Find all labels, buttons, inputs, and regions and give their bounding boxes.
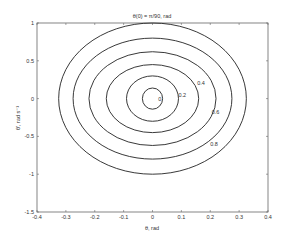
contour-line: [106, 65, 198, 133]
contour-line: [89, 52, 216, 146]
x-tick-label: 0.4: [264, 214, 272, 220]
y-tick-label: 1: [31, 20, 34, 26]
y-axis: 10.50-0.5-1-1.5: [25, 20, 268, 215]
contour-label: 0.4: [197, 80, 205, 86]
x-tick-label: -0.1: [119, 214, 128, 220]
contour-label: 0.6: [212, 109, 220, 115]
y-tick-label: 0.5: [26, 58, 34, 64]
contour-label: 0: [158, 96, 161, 102]
contour-line: [127, 76, 179, 121]
contour-label: 0.2: [178, 92, 186, 98]
contour-label: 0.8: [210, 141, 218, 147]
y-axis-label: θ', rad s⁻¹: [15, 106, 21, 130]
contour-lines: 00.20.40.60.8: [59, 23, 247, 174]
x-tick-label: 0: [151, 214, 154, 220]
contour-line: [59, 23, 247, 174]
x-tick-label: 0.1: [178, 214, 186, 220]
y-tick-label: -1.5: [25, 209, 34, 215]
x-tick-label: 0.3: [235, 214, 243, 220]
y-tick-label: 0: [31, 96, 34, 102]
chart-title: θ(0) = π/90, rad: [133, 13, 172, 19]
x-axis-label: θ, rad: [145, 225, 159, 231]
contour-chart: θ(0) = π/90, rad -0.4-0.3-0.2-0.100.10.2…: [0, 0, 286, 234]
y-tick-label: -1: [29, 171, 34, 177]
y-tick-label: -0.5: [25, 133, 34, 139]
x-tick-label: -0.2: [90, 214, 99, 220]
contour-line: [73, 38, 232, 159]
x-tick-label: 0.2: [206, 214, 214, 220]
x-tick-label: -0.3: [61, 214, 70, 220]
